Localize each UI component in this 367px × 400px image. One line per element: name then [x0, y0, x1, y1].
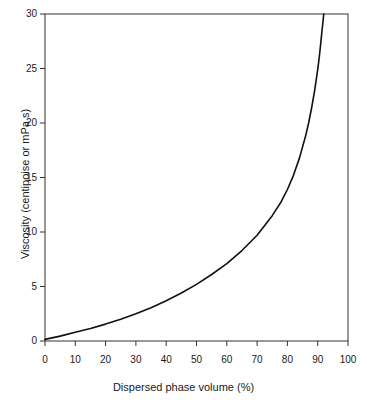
x-tick-label: 50 — [191, 355, 202, 365]
x-tick-label: 20 — [100, 355, 111, 365]
x-tick-label: 60 — [221, 355, 232, 365]
x-axis-title: Dispersed phase volume (%) — [0, 381, 367, 393]
x-tick-label: 100 — [340, 355, 357, 365]
x-tick-label: 80 — [282, 355, 293, 365]
x-tick-label: 90 — [312, 355, 323, 365]
x-tick-label: 10 — [70, 355, 81, 365]
viscosity-chart-figure: 0102030405060708090100 051015202530 Disp… — [0, 0, 367, 400]
x-tick-label: 70 — [252, 355, 263, 365]
plot-frame-rect — [45, 14, 348, 341]
x-tick-label: 30 — [130, 355, 141, 365]
y-tick-label: 0 — [13, 336, 37, 346]
chart-plot-area — [0, 0, 367, 400]
plot-frame — [45, 14, 348, 341]
y-tick-label: 25 — [13, 64, 37, 74]
x-tick-label: 40 — [161, 355, 172, 365]
y-axis-title: Viscosity (centipoise or mPa s) — [19, 84, 31, 284]
y-tick-label: 30 — [13, 9, 37, 19]
x-axis-ticks — [45, 341, 348, 346]
y-axis-ticks — [40, 14, 45, 341]
x-tick-label: 0 — [42, 355, 48, 365]
